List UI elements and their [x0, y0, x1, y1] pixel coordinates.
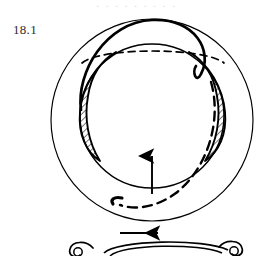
dashed-great-circle-back: [120, 82, 215, 207]
figure-illustration: [0, 0, 273, 256]
hatched-lune-right: [165, 40, 235, 175]
lower-figure-group: [70, 233, 243, 256]
upper-figure-group: [51, 19, 253, 221]
tube-outline-inner: [110, 246, 222, 256]
figure-page: . . . . . . . . . 18.1: [0, 0, 273, 256]
tube-outline-top: [104, 242, 228, 253]
dashed-curve-hook-terminal: [112, 197, 122, 204]
spiral-curl-left: [70, 242, 93, 256]
